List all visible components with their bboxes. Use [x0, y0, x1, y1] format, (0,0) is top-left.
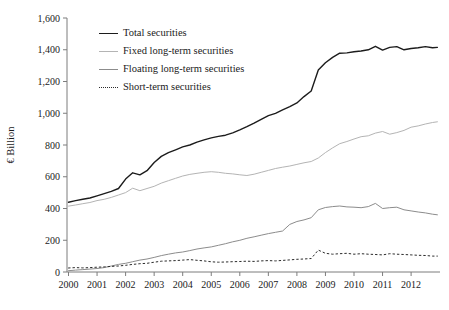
series-line-2 — [69, 203, 438, 270]
x-tick-label: 2005 — [201, 279, 221, 290]
legend-item-short: Short-term securities — [99, 78, 244, 96]
x-tick-label: 2006 — [230, 279, 250, 290]
x-tick-label: 2008 — [287, 279, 307, 290]
x-tick-label: 2001 — [87, 279, 107, 290]
legend-label-total: Total securities — [123, 24, 187, 42]
y-tick-label: 800 — [45, 140, 60, 151]
legend-item-fixed: Fixed long-term securities — [99, 42, 244, 60]
x-tick-label: 2004 — [173, 279, 193, 290]
x-tick-label: 2010 — [344, 279, 364, 290]
series-line-3 — [69, 250, 438, 268]
legend-swatch-floating-line — [99, 69, 118, 70]
x-tick-label: 2007 — [258, 279, 278, 290]
x-tick-label: 2012 — [401, 279, 421, 290]
chart-legend: Total securities Fixed long-term securit… — [99, 24, 244, 96]
x-tick-label: 2000 — [59, 279, 79, 290]
legend-swatch-total-line — [99, 33, 118, 34]
y-tick-label: 600 — [45, 171, 60, 182]
legend-label-short: Short-term securities — [123, 78, 211, 96]
legend-item-floating: Floating long-term securities — [99, 60, 244, 78]
securities-line-chart: 02004006008001,0001,2001,4001,6002000200… — [0, 0, 449, 310]
legend-label-floating: Floating long-term securities — [123, 60, 244, 78]
y-tick-label: 1,600 — [38, 13, 61, 24]
legend-item-total: Total securities — [99, 24, 244, 42]
x-tick-label: 2003 — [144, 279, 164, 290]
series-line-1 — [69, 122, 438, 206]
y-tick-label: 1,000 — [38, 108, 61, 119]
y-tick-label: 1,400 — [38, 44, 61, 55]
y-tick-label: 0 — [55, 267, 60, 278]
y-axis-title: € Billion — [5, 126, 16, 164]
y-tick-label: 200 — [45, 235, 60, 246]
legend-swatch-short-line — [99, 87, 118, 88]
y-tick-label: 1,200 — [38, 76, 61, 87]
x-tick-label: 2011 — [373, 279, 393, 290]
legend-label-fixed: Fixed long-term securities — [123, 42, 233, 60]
x-tick-label: 2002 — [116, 279, 136, 290]
x-tick-label: 2009 — [315, 279, 335, 290]
y-tick-label: 400 — [45, 203, 60, 214]
legend-swatch-fixed-line — [99, 51, 118, 52]
